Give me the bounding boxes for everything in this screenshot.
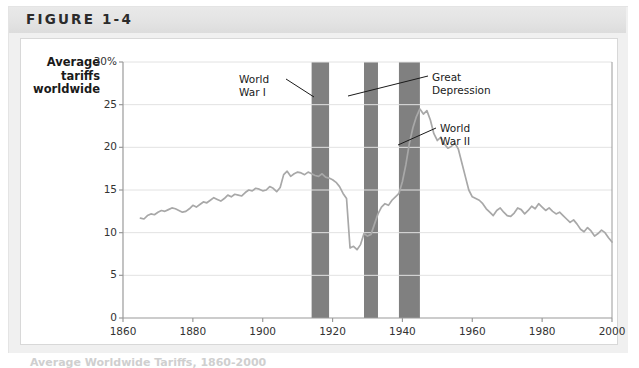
y-tick-label: 25 bbox=[81, 98, 117, 110]
x-tick-label: 1980 bbox=[517, 325, 567, 337]
figure-caption: Average Worldwide Tariffs, 1860-2000 bbox=[30, 356, 266, 368]
x-tick-label: 1860 bbox=[98, 325, 148, 337]
annotation-label-great-depression: Great Depression bbox=[432, 71, 491, 96]
x-tick-label: 1960 bbox=[447, 325, 497, 337]
y-tick-label: 5 bbox=[81, 268, 117, 280]
annotation-label-world-war-i: World War I bbox=[239, 73, 269, 98]
x-tick-label: 1880 bbox=[168, 325, 218, 337]
y-tick-label: 20 bbox=[81, 140, 117, 152]
figure-number-label: FIGURE 1-4 bbox=[26, 11, 133, 27]
annotation-label-world-war-ii: World War II bbox=[440, 122, 470, 147]
x-tick-label: 1940 bbox=[377, 325, 427, 337]
x-tick-label: 2000 bbox=[587, 325, 637, 337]
y-tick-label: 15 bbox=[81, 183, 117, 195]
x-tick-label: 1920 bbox=[308, 325, 358, 337]
figure-root: FIGURE 1-4 Average tariffs worldwide 051… bbox=[0, 0, 639, 368]
x-tick-label: 1900 bbox=[238, 325, 288, 337]
y-tick-label: 0 bbox=[81, 311, 117, 323]
y-tick-label: 10 bbox=[81, 226, 117, 238]
figure-caption-strip: Average Worldwide Tariffs, 1860-2000 bbox=[8, 356, 628, 368]
y-tick-label: 30% bbox=[81, 55, 117, 67]
